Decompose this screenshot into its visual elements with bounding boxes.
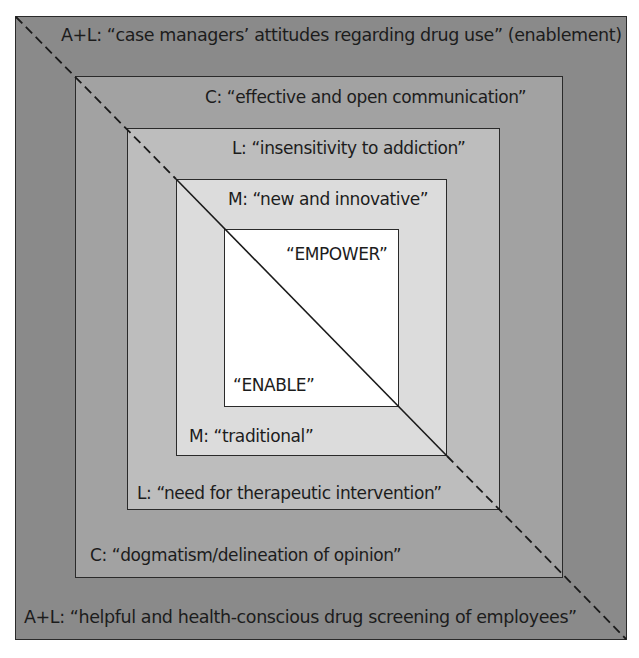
third-top-label: L: “insensitivity to addiction” [232, 138, 465, 158]
second-bottom-label: C: “dogmatism/delineation of opinion” [90, 545, 401, 565]
second-top-label: C: “effective and open communication” [205, 87, 526, 107]
empower-label: “EMPOWER” [286, 244, 387, 264]
fourth-top-label: M: “new and innovative” [228, 189, 428, 209]
enable-label: “ENABLE” [233, 375, 314, 395]
outer-top-label: A+L: “case managers’ attitudes regarding… [61, 25, 622, 45]
outer-bottom-label: A+L: “helpful and health-conscious drug … [24, 607, 577, 627]
third-bottom-label: L: “need for therapeutic intervention” [137, 483, 442, 503]
fourth-bottom-label: M: “traditional” [189, 426, 313, 446]
